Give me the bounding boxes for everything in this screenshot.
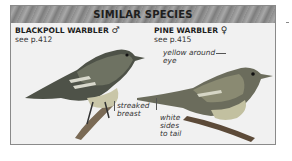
- margin-mark: [286, 22, 289, 23]
- page-reference: see p.415: [154, 35, 227, 44]
- blackpoll-warbler-illustration-icon: [17, 40, 147, 144]
- annotation-white-sides-to-tail: white sides to tail: [160, 114, 181, 138]
- panel-header: SIMILAR SPECIES: [11, 6, 275, 23]
- leader-line: [156, 98, 157, 110]
- species-name: PINE WARBLER: [154, 26, 218, 35]
- header-title: SIMILAR SPECIES: [93, 9, 192, 20]
- species-name: BLACKPOLL WARBLER: [15, 26, 109, 35]
- similar-species-panel: SIMILAR SPECIES BLACKPOLL WARBLER ♂ see …: [10, 5, 276, 145]
- species-pine: PINE WARBLER ♀ see p.415: [154, 25, 227, 44]
- pine-warbler-illustration-icon: [137, 48, 275, 144]
- leader-line: [114, 101, 115, 111]
- female-symbol-icon: ♀: [221, 25, 228, 35]
- male-symbol-icon: ♂: [111, 25, 119, 35]
